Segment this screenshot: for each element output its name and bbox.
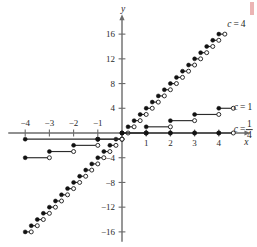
open-endpoint-marker <box>168 88 172 92</box>
closed-endpoint-marker <box>174 75 178 79</box>
y-tick-label: 4 <box>111 103 116 113</box>
open-endpoint-marker <box>193 63 197 67</box>
open-endpoint-marker <box>138 119 142 123</box>
closed-endpoint-marker <box>168 119 172 123</box>
open-endpoint-marker <box>174 82 178 86</box>
open-endpoint-marker <box>96 143 100 147</box>
open-endpoint-marker <box>53 205 57 209</box>
open-endpoint-marker <box>72 187 76 191</box>
open-endpoint-marker <box>41 218 45 222</box>
curve-label-variable: c <box>227 19 232 29</box>
closed-endpoint-marker <box>90 162 94 166</box>
open-endpoint-marker <box>162 94 166 98</box>
open-endpoint-marker <box>35 224 39 228</box>
curve-label-c-equals-4: c=4 <box>227 19 246 29</box>
open-endpoint-marker <box>72 150 76 154</box>
closed-endpoint-marker <box>47 205 51 209</box>
open-endpoint-marker <box>168 125 172 129</box>
curve-label-equals: = <box>233 19 238 29</box>
closed-endpoint-marker <box>53 199 57 203</box>
y-tick-label: 12 <box>106 54 115 64</box>
closed-endpoint-marker <box>199 51 203 55</box>
open-endpoint-marker <box>150 106 154 110</box>
closed-endpoint-marker <box>66 187 70 191</box>
open-endpoint-marker <box>47 156 51 160</box>
x-tick-label: −3 <box>45 118 55 128</box>
plot-canvas: −4−3−2−11234161284−4−8−12−16 xy c=4c=1c=… <box>0 0 257 247</box>
closed-endpoint-marker <box>181 69 185 73</box>
open-endpoint-marker <box>181 75 185 79</box>
open-endpoint-marker <box>132 125 136 129</box>
x-tick-label: 1 <box>144 138 149 148</box>
closed-endpoint-marker <box>193 131 197 135</box>
closed-endpoint-marker <box>29 224 33 228</box>
fraction-denominator: 4 <box>247 130 252 140</box>
curve-label-variable: c <box>234 124 239 134</box>
x-tick-label: 3 <box>192 138 197 148</box>
open-endpoint-marker <box>187 69 191 73</box>
open-endpoint-marker <box>193 119 197 123</box>
closed-endpoint-marker <box>168 131 172 135</box>
open-endpoint-marker <box>60 199 64 203</box>
closed-endpoint-marker <box>96 137 100 141</box>
closed-endpoint-marker <box>35 218 39 222</box>
open-endpoint-marker <box>47 211 51 215</box>
y-tick-label: −16 <box>101 227 116 237</box>
curve-label-variable: c <box>234 102 239 112</box>
y-tick-label: 16 <box>106 29 116 39</box>
closed-endpoint-marker <box>138 112 142 116</box>
closed-endpoint-marker <box>193 57 197 61</box>
closed-endpoint-marker <box>150 100 154 104</box>
closed-endpoint-marker <box>78 174 82 178</box>
curve-labels-group: c=4c=1c=14 <box>227 19 252 139</box>
closed-endpoint-marker <box>72 180 76 184</box>
closed-endpoint-marker <box>217 131 221 135</box>
open-endpoint-marker <box>199 57 203 61</box>
x-tick-label: 2 <box>168 138 173 148</box>
x-tick-label: −4 <box>20 118 30 128</box>
closed-endpoint-marker <box>47 150 51 154</box>
curve-label-value: 4 <box>241 19 246 29</box>
closed-endpoint-marker <box>41 211 45 215</box>
closed-endpoint-marker <box>217 106 221 110</box>
y-tick-label: −8 <box>105 178 115 188</box>
closed-endpoint-marker <box>23 230 27 234</box>
closed-endpoint-marker <box>144 131 148 135</box>
curve-label-c-equals-one-quarter: c= <box>234 124 246 134</box>
open-endpoint-marker <box>78 180 82 184</box>
open-endpoint-marker <box>114 143 118 147</box>
open-endpoint-marker <box>84 174 88 178</box>
open-endpoint-marker <box>205 51 209 55</box>
y-axis-label: y <box>120 4 126 14</box>
curve-label-c-equals-1: c=1 <box>234 102 253 112</box>
closed-endpoint-marker <box>162 88 166 92</box>
open-endpoint-marker <box>156 100 160 104</box>
closed-endpoint-marker <box>217 32 221 36</box>
closed-endpoint-marker <box>211 38 215 42</box>
y-tick-label: −12 <box>101 202 115 212</box>
step-function-figure: −4−3−2−11234161284−4−8−12−16 xy c=4c=1c=… <box>0 0 257 247</box>
fraction-numerator: 1 <box>247 119 252 129</box>
curve-label-value: 1 <box>247 102 252 112</box>
x-tick-label: −2 <box>69 118 79 128</box>
open-endpoint-marker <box>120 137 124 141</box>
open-endpoint-marker <box>211 44 215 48</box>
y-axis-arrow <box>119 14 124 20</box>
closed-endpoint-marker <box>84 168 88 172</box>
closed-endpoint-marker <box>23 137 27 141</box>
x-tick-label: −1 <box>93 118 103 128</box>
open-endpoint-marker <box>223 32 227 36</box>
closed-endpoint-marker <box>187 63 191 67</box>
closed-endpoint-marker <box>193 112 197 116</box>
open-endpoint-marker <box>66 193 70 197</box>
y-tick-label: 8 <box>111 79 116 89</box>
closed-endpoint-marker <box>132 119 136 123</box>
closed-endpoint-marker <box>156 94 160 98</box>
closed-endpoint-marker <box>144 125 148 129</box>
open-endpoint-marker <box>217 38 221 42</box>
closed-endpoint-marker <box>108 143 112 147</box>
closed-endpoint-marker <box>126 125 130 129</box>
corner-margin-mark <box>250 2 254 15</box>
curve-label-equals: = <box>240 124 245 134</box>
closed-endpoint-marker <box>144 106 148 110</box>
